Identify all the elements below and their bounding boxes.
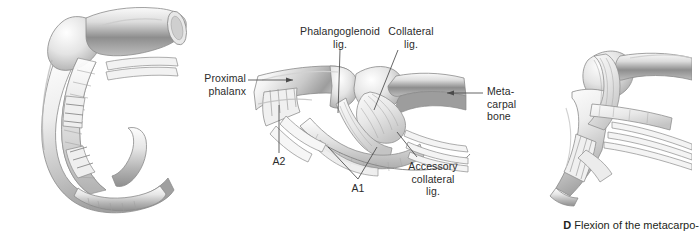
label-collateral-lig: Collateral lig. [368,25,454,50]
label-a1: A1 [345,182,371,195]
label-metacarpal-bone: Meta- carpal bone [487,85,547,123]
panel-left-artwork [42,7,190,212]
panel-right-artwork [550,51,692,206]
label-a2: A2 [266,155,292,168]
label-proximal-phalanx: Proximal phalanx [148,72,246,97]
caption-text: Flexion of the metacarpo- [574,219,699,231]
caption-marker: D [563,219,571,231]
label-accessory-collateral-lig: Accessory collateral lig. [392,160,474,198]
figure-caption: D Flexion of the metacarpo- [551,206,699,240]
